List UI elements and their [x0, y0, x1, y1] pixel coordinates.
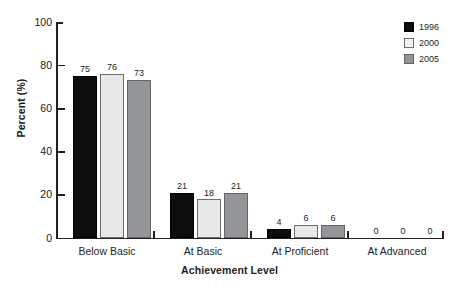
bar-at-proficient-2005 — [321, 225, 345, 238]
bar-label-at-proficient-1996: 4 — [267, 218, 291, 227]
plot-area: 75 76 73 21 18 21 4 6 6 0 0 0 — [56, 22, 444, 238]
y-tick-label-20: 20 — [28, 189, 52, 199]
bar-at-basic-2005 — [224, 193, 248, 238]
y-tick-label-80: 80 — [28, 60, 52, 70]
bar-label-at-advanced-1996: 0 — [364, 227, 388, 236]
legend-swatch-icon-2000 — [404, 38, 414, 48]
x-group-label-below-basic: Below Basic — [60, 245, 154, 257]
x-group-label-at-basic: At Basic — [158, 245, 248, 257]
bar-at-proficient-2000 — [294, 225, 318, 238]
bar-label-below-basic-1996: 75 — [73, 65, 97, 74]
x-axis-title: Achievement Level — [0, 264, 459, 276]
bar-label-at-advanced-2000: 0 — [391, 227, 415, 236]
bar-label-at-advanced-2005: 0 — [418, 227, 442, 236]
bar-below-basic-2005 — [127, 80, 151, 238]
y-tick-label-40: 40 — [28, 146, 52, 156]
x-group-label-at-proficient: At Proficient — [253, 245, 347, 257]
bar-below-basic-2000 — [100, 74, 124, 238]
bar-label-at-basic-2000: 18 — [197, 189, 221, 198]
bar-label-below-basic-2000: 76 — [100, 63, 124, 72]
bar-label-below-basic-2005: 73 — [127, 69, 151, 78]
y-tick-label-0: 0 — [28, 233, 52, 243]
y-tick-label-100: 100 — [28, 17, 52, 27]
legend-label-2000: 2000 — [419, 38, 439, 48]
legend-item-2000: 2000 — [404, 36, 456, 50]
bar-at-basic-1996 — [170, 193, 194, 238]
legend-item-1996: 1996 — [404, 20, 456, 34]
bar-label-at-proficient-2005: 6 — [321, 214, 345, 223]
y-axis-tick-labels: 100 80 60 40 20 0 — [24, 0, 52, 291]
bar-at-basic-2000 — [197, 199, 221, 238]
bar-label-at-proficient-2000: 6 — [294, 214, 318, 223]
bar-label-at-basic-2005: 21 — [224, 182, 248, 191]
legend-swatch-icon-1996 — [404, 22, 414, 32]
y-tick-label-60: 60 — [28, 103, 52, 113]
bar-chart: Percent (%) 100 80 60 40 20 0 75 76 73 2… — [0, 0, 459, 291]
legend-label-1996: 1996 — [419, 22, 439, 32]
legend-label-2005: 2005 — [419, 54, 439, 64]
bar-below-basic-1996 — [73, 76, 97, 238]
legend-swatch-icon-2005 — [404, 54, 414, 64]
bar-at-proficient-1996 — [267, 229, 291, 238]
x-group-label-at-advanced: At Advanced — [350, 245, 444, 257]
legend: 1996 2000 2005 — [404, 20, 456, 68]
bar-label-at-basic-1996: 21 — [170, 182, 194, 191]
legend-item-2005: 2005 — [404, 52, 456, 66]
